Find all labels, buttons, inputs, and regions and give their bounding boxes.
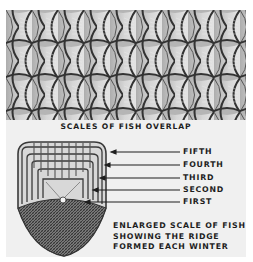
enlarged-scale-description: ENLARGED SCALE OF FISH SHOWING THE RIDGE… [113, 221, 246, 253]
ridge-label-first: FIRST [183, 197, 212, 207]
description-line: SHOWING THE RIDGE [113, 232, 246, 243]
ridge-label-fourth: FOURTH [183, 160, 224, 170]
ridge-label-second: SECOND [183, 185, 224, 195]
ridge-label-third: THIRD [183, 173, 214, 183]
description-line: ENLARGED SCALE OF FISH [113, 221, 246, 232]
ridge-label-fifth: FIFTH [183, 147, 212, 157]
description-line: FORMED EACH WINTER [113, 242, 246, 253]
